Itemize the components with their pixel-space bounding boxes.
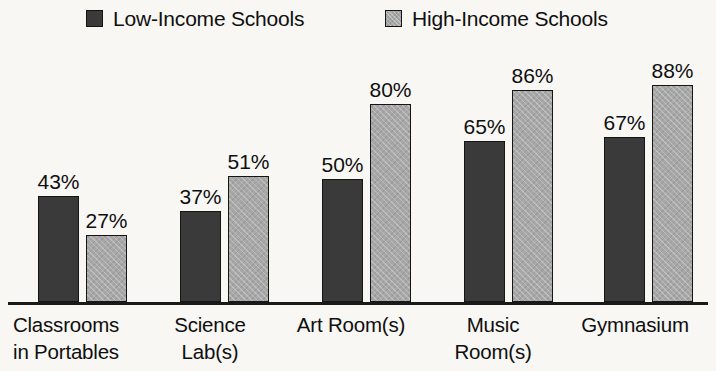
plot-area: 43% 27% 37% 51% 50% 80% [0, 0, 716, 371]
bar-value-high-income-gymnasium: 88% [651, 60, 693, 82]
x-axis-baseline [8, 302, 708, 305]
bar-high-income-science-labs: 51% [228, 176, 269, 302]
category-label-classrooms-in-portables: Classrooms in Portables [0, 311, 139, 365]
category-label-line-1: Classrooms [0, 311, 139, 338]
bar-value-low-income-art-rooms: 50% [321, 154, 363, 176]
bar-high-income-gymnasium: 88% [652, 85, 693, 302]
bar-value-high-income-art-rooms: 80% [369, 79, 411, 101]
bar-low-income-art-rooms: 50% [322, 179, 363, 303]
category-label-line-2: Lab(s) [137, 338, 283, 365]
bar-high-income-art-rooms: 80% [370, 104, 411, 302]
bar-value-low-income-gymnasium: 67% [603, 112, 645, 134]
category-label-line-1: Music [420, 311, 566, 338]
category-label-art-rooms: Art Room(s) [278, 311, 424, 338]
category-label-line-2: Room(s) [420, 338, 566, 365]
category-label-line-1: Science [137, 311, 283, 338]
bar-low-income-gymnasium: 67% [604, 137, 645, 302]
category-label-line-1: Art Room(s) [278, 311, 424, 338]
category-label-line-2: in Portables [0, 338, 139, 365]
category-label-gymnasium: Gymnasium [562, 311, 708, 338]
category-label-line-1: Gymnasium [562, 311, 708, 338]
category-label-science-labs: Science Lab(s) [137, 311, 283, 365]
bar-group-science-labs: 37% 51% [180, 66, 312, 302]
grouped-bar-chart: Low-Income Schools High-Income Schools 4… [0, 0, 716, 371]
bar-group-music-rooms: 65% 86% [464, 66, 596, 302]
bar-value-high-income-classrooms-in-portables: 27% [85, 210, 127, 232]
bar-value-high-income-science-labs: 51% [227, 151, 269, 173]
bar-high-income-classrooms-in-portables: 27% [86, 235, 127, 302]
bar-value-high-income-music-rooms: 86% [511, 65, 553, 87]
bar-low-income-science-labs: 37% [180, 211, 221, 302]
bar-low-income-music-rooms: 65% [464, 141, 505, 302]
bar-high-income-music-rooms: 86% [512, 90, 553, 302]
bar-low-income-classrooms-in-portables: 43% [38, 196, 79, 302]
bar-value-low-income-classrooms-in-portables: 43% [37, 171, 79, 193]
bar-group-gymnasium: 67% 88% [604, 66, 716, 302]
bar-value-low-income-science-labs: 37% [179, 186, 221, 208]
bar-group-classrooms-in-portables: 43% 27% [38, 66, 170, 302]
bar-value-low-income-music-rooms: 65% [463, 116, 505, 138]
bar-group-art-rooms: 50% 80% [322, 66, 454, 302]
category-label-music-rooms: Music Room(s) [420, 311, 566, 365]
